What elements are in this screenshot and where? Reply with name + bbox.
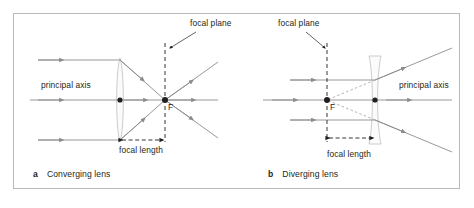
panel-b-focal-plane-label: focal plane: [278, 19, 320, 27]
panel-b-refracted-ray-upper-arrow: [375, 68, 404, 80]
panel-b-diverging-lens: [263, 32, 452, 152]
panel-b-caption: b Diverging lens: [268, 170, 338, 179]
optics-figure: principal axis focal plane F focal lengt…: [0, 0, 474, 208]
panel-a-emergent-ray-upper-arrow: [165, 81, 192, 100]
panel-b-focal-point-label: F: [330, 103, 335, 111]
panel-a-principal-axis-label: principal axis: [41, 81, 91, 89]
panel-a-focal-plane-label: focal plane: [190, 19, 232, 27]
panel-a-caption-text: Converging lens: [47, 169, 111, 179]
panel-b-caption-letter: b: [268, 169, 273, 179]
panel-b-caption-text: Diverging lens: [282, 169, 338, 179]
panel-b-focal-plane-leader: [306, 32, 325, 48]
panel-b-focal-length-label: focal length: [327, 150, 371, 158]
panel-a-refracted-ray-bottom-arrow: [120, 119, 144, 140]
panel-b-optical-centre-dot: [372, 97, 377, 102]
panel-a-optical-centre-dot: [117, 97, 122, 102]
panel-a-caption-letter: a: [33, 169, 38, 179]
panel-b-virtual-ray-upper: [327, 80, 375, 100]
panel-a-focal-length-label: focal length: [119, 146, 163, 154]
panel-a-focal-plane-leader: [170, 32, 196, 48]
panel-b-refracted-ray-lower-arrow: [375, 120, 404, 132]
panel-b-principal-axis-label: principal axis: [399, 81, 449, 89]
panel-a-caption: a Converging lens: [33, 170, 111, 179]
panel-a-refracted-ray-top-arrow: [120, 60, 143, 80]
panel-a-focal-point-label: F: [168, 103, 173, 111]
